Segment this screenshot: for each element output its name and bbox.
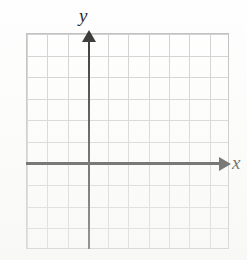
graph-figure: x y — [0, 0, 247, 260]
y-axis-line — [88, 36, 91, 249]
y-axis-arrowhead-icon — [82, 30, 96, 42]
coordinate-grid — [26, 33, 229, 249]
x-axis-label: x — [232, 153, 240, 172]
y-axis-label: y — [79, 6, 87, 25]
x-axis-line — [26, 162, 223, 165]
x-axis-arrowhead-icon — [219, 157, 231, 171]
